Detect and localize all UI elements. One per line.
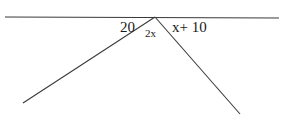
left-angle-label: 20 — [120, 19, 135, 35]
right-angle-label: x+ 10 — [172, 19, 207, 35]
middle-angle-label: 2x — [145, 27, 157, 39]
straight-line — [5, 17, 279, 18]
angle-diagram: 20 2x x+ 10 — [0, 0, 289, 120]
left-ray — [23, 17, 155, 103]
